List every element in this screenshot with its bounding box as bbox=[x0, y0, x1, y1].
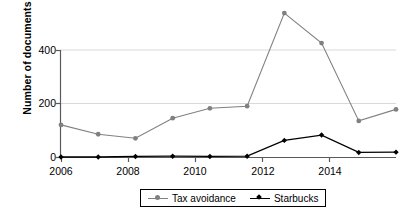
circle-marker-icon bbox=[245, 104, 250, 109]
circle-marker-icon bbox=[133, 136, 138, 141]
circle-marker-icon bbox=[170, 116, 175, 121]
legend-label-tax-avoidance: Tax avoidance bbox=[172, 193, 236, 204]
data-series-layer bbox=[58, 11, 398, 160]
circle-marker-icon bbox=[96, 132, 101, 137]
legend-swatch-tax-avoidance bbox=[148, 193, 168, 203]
axes bbox=[56, 50, 396, 162]
circle-marker-icon bbox=[207, 106, 212, 111]
series-tax-avoidance bbox=[59, 11, 399, 141]
series-line bbox=[61, 135, 396, 157]
diamond-marker-icon bbox=[207, 154, 212, 159]
diamond-marker-icon bbox=[393, 149, 398, 154]
circle-marker-icon bbox=[319, 41, 324, 46]
diamond-marker-icon bbox=[356, 150, 361, 155]
line-chart: Number of documents 400 200 0 2006 2008 … bbox=[0, 0, 402, 218]
legend-swatch-starbucks bbox=[250, 193, 270, 203]
diamond-marker-icon bbox=[282, 138, 287, 143]
diamond-marker-icon bbox=[96, 154, 101, 159]
diamond-marker-icon bbox=[58, 154, 63, 159]
legend-item-starbucks: Starbucks bbox=[250, 193, 318, 204]
series-starbucks bbox=[58, 132, 398, 159]
diamond-marker-icon bbox=[319, 132, 324, 137]
series-line bbox=[61, 13, 396, 138]
circle-marker-icon bbox=[356, 118, 361, 123]
plot-area bbox=[0, 0, 402, 218]
circle-marker-icon bbox=[394, 107, 399, 112]
circle-marker-icon bbox=[155, 195, 160, 200]
chart-legend: Tax avoidance Starbucks bbox=[140, 189, 326, 207]
gridlines bbox=[61, 50, 396, 104]
diamond-marker-icon bbox=[256, 194, 262, 200]
circle-marker-icon bbox=[59, 123, 64, 128]
legend-label-starbucks: Starbucks bbox=[274, 193, 318, 204]
circle-marker-icon bbox=[282, 11, 287, 16]
legend-item-tax-avoidance: Tax avoidance bbox=[148, 193, 236, 204]
diamond-marker-icon bbox=[133, 154, 138, 159]
